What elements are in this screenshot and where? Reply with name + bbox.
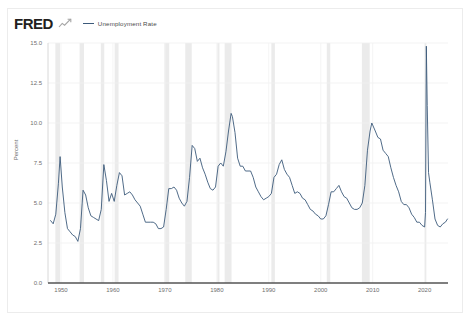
- x-tick-label: 1950: [54, 287, 67, 293]
- x-tick-label: 1960: [106, 287, 119, 293]
- chart-canvas: [0, 0, 471, 323]
- plot-area: Percent 15.0 12.5 10.0 7.5 5.0 2.5 0.0 1…: [0, 0, 471, 323]
- x-tick-label: 2020: [418, 287, 431, 293]
- x-tick-label: 1980: [210, 287, 223, 293]
- series-line-unemployment-rate: [51, 46, 448, 241]
- fred-chart-figure: FRED Unemployment Rate Percent 15.0 12.5…: [0, 0, 471, 323]
- x-tick-label: 1990: [262, 287, 275, 293]
- x-tick-label: 2010: [366, 287, 379, 293]
- x-tick-label: 2000: [314, 287, 327, 293]
- x-tick-label: 1970: [158, 287, 171, 293]
